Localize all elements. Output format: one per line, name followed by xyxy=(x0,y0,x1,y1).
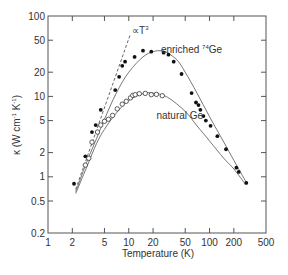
thermal-conductivity-chart: 1251020501002005000.20.5125102050100 ∝T3… xyxy=(0,0,288,275)
data-point-natural xyxy=(143,91,147,95)
t-cubed-label: ∝T3 xyxy=(132,25,149,36)
enriched-ge-label: enriched 74Ge xyxy=(161,44,223,55)
x-tick-label: 5 xyxy=(102,237,108,248)
data-point-natural xyxy=(83,163,87,167)
data-point-enriched xyxy=(133,55,137,59)
data-point-enriched xyxy=(180,72,184,76)
y-tick-label: 5 xyxy=(39,115,45,126)
data-point-natural xyxy=(95,130,99,134)
data-point-enriched xyxy=(120,64,124,68)
x-axis-label: Temperature (K) xyxy=(122,248,194,259)
data-point-natural xyxy=(160,94,164,98)
data-point-enriched xyxy=(215,134,219,138)
y-tick-label: 50 xyxy=(34,35,46,46)
y-axis-label: κ (W cm-1 K-1) xyxy=(11,95,22,155)
data-point-enriched xyxy=(117,75,121,79)
data-point-natural xyxy=(99,123,103,127)
data-point-enriched xyxy=(204,119,208,123)
data-point-enriched xyxy=(94,123,98,127)
data-point-natural xyxy=(133,92,137,96)
y-tick-label: 0.5 xyxy=(31,196,45,207)
y-tick-label: 2 xyxy=(39,147,45,158)
x-tick-label: 50 xyxy=(180,237,192,248)
data-point-enriched xyxy=(72,182,76,186)
y-tick-label: 1 xyxy=(39,171,45,182)
data-point-enriched xyxy=(237,170,241,174)
fit-curve xyxy=(76,93,246,194)
data-point-enriched xyxy=(141,49,145,53)
data-point-enriched xyxy=(234,166,238,170)
x-tick-label: 10 xyxy=(123,237,135,248)
plot-axes: 1251020501002005000.20.5125102050100 xyxy=(28,11,274,249)
x-tick-label: 1 xyxy=(45,237,51,248)
natural-ge-label: natural Ge xyxy=(156,110,203,121)
data-point-natural xyxy=(106,117,110,121)
data-point-natural xyxy=(124,99,128,103)
data-point-natural xyxy=(120,102,124,106)
x-tick-label: 2 xyxy=(70,237,76,248)
data-point-enriched xyxy=(209,124,213,128)
y-tick-label: 20 xyxy=(34,67,46,78)
x-tick-label: 200 xyxy=(226,237,243,248)
data-point-enriched xyxy=(113,88,117,92)
data-point-enriched xyxy=(172,60,176,64)
data-point-enriched xyxy=(90,130,94,134)
data-point-natural xyxy=(149,92,153,96)
data-point-enriched xyxy=(190,91,194,95)
y-tick-label: 100 xyxy=(28,11,45,22)
data-point-enriched xyxy=(224,147,228,151)
x-tick-label: 100 xyxy=(201,237,218,248)
annotations: ∝T3 enriched 74Ge natural Ge Temperature… xyxy=(11,25,223,259)
data-point-natural xyxy=(137,92,141,96)
data-point-enriched xyxy=(123,60,127,64)
data-point-enriched xyxy=(149,50,153,54)
y-tick-label: 0.2 xyxy=(31,228,45,239)
data-point-enriched xyxy=(99,108,103,112)
data-point-natural xyxy=(154,92,158,96)
data-point-natural xyxy=(90,140,94,144)
data-point-enriched xyxy=(197,103,201,107)
data-point-natural xyxy=(87,156,91,160)
x-tick-label: 20 xyxy=(148,237,160,248)
data-point-natural xyxy=(115,107,119,111)
data-point-enriched xyxy=(244,181,248,185)
x-tick-label: 500 xyxy=(258,237,275,248)
data-point-natural xyxy=(110,113,114,117)
y-tick-label: 10 xyxy=(34,91,46,102)
